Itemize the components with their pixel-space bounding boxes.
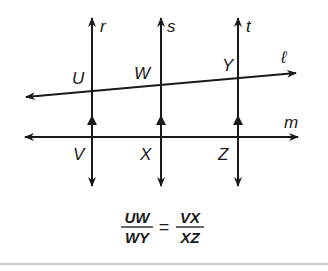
line-t bbox=[233, 18, 243, 186]
label-point-Z: Z bbox=[217, 145, 229, 164]
label-line-l: ℓ bbox=[280, 48, 287, 67]
parallel-mark-s bbox=[156, 115, 166, 125]
label-point-X: X bbox=[139, 145, 152, 164]
label-point-W: W bbox=[134, 64, 152, 83]
formula-equals: = bbox=[159, 217, 170, 237]
parallel-mark-t bbox=[233, 115, 243, 125]
line-s bbox=[156, 18, 166, 186]
label-line-r: r bbox=[100, 17, 107, 36]
label-line-t: t bbox=[246, 17, 252, 36]
label-point-Y: Y bbox=[222, 56, 235, 75]
label-point-V: V bbox=[73, 145, 86, 164]
proportion-formula: UW WY = VX XZ bbox=[121, 209, 204, 246]
formula-right-numerator: VX bbox=[180, 209, 201, 226]
formula-right-denominator: XZ bbox=[179, 229, 200, 246]
parallel-lines-diagram: r s t ℓ m U W Y V X Z UW WY = VX XZ bbox=[0, 0, 328, 271]
formula-left-numerator: UW bbox=[125, 209, 152, 226]
label-point-U: U bbox=[72, 69, 85, 88]
label-line-s: s bbox=[167, 17, 176, 36]
line-r bbox=[87, 18, 97, 186]
label-line-m: m bbox=[284, 113, 298, 132]
formula-left-denominator: WY bbox=[125, 229, 151, 246]
parallel-mark-r bbox=[87, 115, 97, 125]
